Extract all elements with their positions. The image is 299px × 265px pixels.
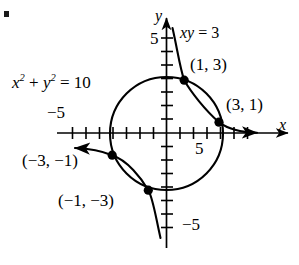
hyperbola-equation-label: xy = 3: [180, 25, 219, 41]
x-tick-label-5: 5: [195, 140, 204, 157]
circle-equation-label: x2 + y2 = 10: [12, 73, 91, 91]
circle-eq-var-x: x: [12, 73, 20, 92]
point-dot-m1-m3: [144, 186, 153, 195]
point-dot-3-1: [214, 118, 223, 127]
figure-canvas: x2 + y2 = 10 xy = 3 y x 5 −5 −5 5 (1, 3)…: [0, 0, 299, 265]
x-axis-label: x: [279, 117, 286, 133]
point-label-minus3-minus1: (−3, −1): [22, 152, 78, 169]
point-label-1-3: (1, 3): [190, 56, 227, 73]
point-label-3-1: (3, 1): [226, 96, 263, 113]
y-tick-label-5: 5: [150, 30, 159, 47]
point-dot-1-3: [180, 76, 189, 85]
point-label-minus1-minus3: (−1, −3): [58, 192, 114, 209]
circle-eq-tail: = 10: [56, 73, 91, 92]
x-tick-label-minus5: −5: [47, 104, 65, 121]
y-tick-label-minus5: −5: [182, 216, 200, 233]
hyperbola-eq-vars: xy: [180, 24, 194, 41]
circle-eq-plus: +: [25, 73, 43, 92]
y-axis-label: y: [155, 8, 162, 24]
hyperbola-eq-tail: = 3: [194, 24, 219, 41]
point-dot-m3-m1: [108, 151, 117, 160]
